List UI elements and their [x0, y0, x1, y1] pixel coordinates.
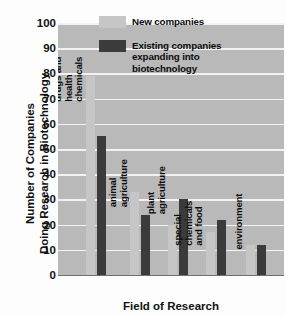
category-label: environment [234, 193, 245, 249]
y-tick-label: 20 [43, 219, 56, 231]
y-tick-label: 30 [43, 193, 56, 205]
y-tick-label: 100 [37, 17, 56, 29]
legend-entry: New companies [99, 16, 204, 28]
y-tick-label: 80 [43, 67, 56, 79]
page-edge-right [286, 0, 291, 321]
y-tick-label: 60 [43, 118, 56, 130]
bar-existing-companies [141, 215, 150, 275]
y-tick-label: 10 [43, 244, 56, 256]
y-axis-tick-labels: 0102030405060708090100 [24, 23, 56, 275]
page-edge-bottom [0, 317, 291, 321]
bar-new-companies [206, 232, 215, 275]
legend-entry: Existing companies expanding into biotec… [99, 40, 221, 74]
bar-new-companies [246, 245, 255, 275]
bar-new-companies [130, 192, 139, 275]
legend-label: New companies [132, 16, 204, 27]
x-axis-title: Field of Research [58, 300, 284, 312]
category-label: plant agriculture [146, 167, 167, 215]
y-tick-label: 0 [50, 269, 56, 281]
bar-existing-companies [257, 245, 266, 275]
bar-existing-companies [217, 220, 226, 275]
bar-existing-companies [97, 136, 106, 275]
legend-label: Existing companies expanding into biotec… [132, 40, 221, 74]
bar-new-companies [86, 76, 95, 275]
y-tick-label: 50 [43, 143, 56, 155]
category-label: drugs and health chemicals [58, 57, 85, 102]
legend-swatch-new [99, 16, 126, 28]
category-label: animal agriculture [108, 159, 129, 207]
category-label: special chemicals and food [173, 200, 205, 245]
x-axis-line [58, 275, 284, 277]
legend-swatch-existing [99, 40, 126, 52]
y-tick-label: 90 [43, 42, 56, 54]
y-tick-label: 70 [43, 93, 56, 105]
bar-chart-figure: Number of Companies Doing Research in Bi… [0, 0, 291, 321]
y-tick-label: 40 [43, 168, 56, 180]
